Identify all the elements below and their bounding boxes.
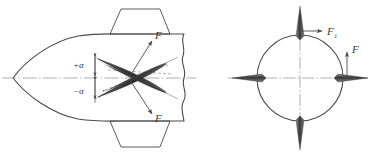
blade-top [296, 6, 304, 40]
label-angle-positive: +α [73, 60, 84, 70]
figure-caption [0, 151, 369, 159]
control-blade-lower [98, 64, 166, 97]
label-force-horizontal: F [326, 25, 334, 37]
label-force-lower: F [154, 112, 162, 124]
blade-right [334, 74, 368, 82]
blade-left [232, 74, 266, 82]
cross-section-group: F 1 F [228, 6, 368, 150]
control-blade-upper [98, 59, 166, 92]
technical-diagram: +α −α F F F 1 F [0, 0, 369, 159]
label-force-upper: F [154, 29, 162, 41]
ventral-fin [110, 121, 170, 147]
fuselage-outline [13, 34, 185, 121]
figure-root: +α −α F F F 1 F [0, 0, 369, 159]
side-view-group: +α −α F F [2, 9, 196, 147]
label-force-vertical: F [351, 43, 359, 55]
label-force-horizontal-subscript: 1 [334, 32, 337, 39]
blade-bottom [296, 116, 304, 150]
label-angle-negative: −α [73, 86, 84, 96]
